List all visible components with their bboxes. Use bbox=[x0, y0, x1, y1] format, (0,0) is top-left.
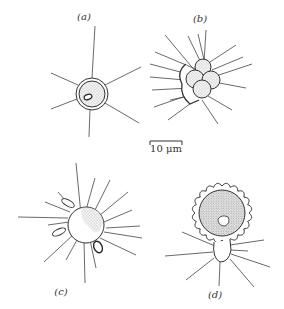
cell-b-4 bbox=[193, 80, 211, 98]
attached-body-c-3 bbox=[92, 240, 104, 254]
scale-bar-label: 10 μm bbox=[150, 143, 182, 154]
figure-canvas: (a) (b) bbox=[0, 0, 284, 309]
nucleus-d bbox=[218, 216, 229, 226]
panel-label-d: (d) bbox=[208, 289, 222, 300]
panel-label-b: (b) bbox=[193, 13, 207, 24]
panel-label-a: (a) bbox=[77, 11, 91, 22]
panel-b: (b) bbox=[150, 13, 252, 124]
panel-label-c: (c) bbox=[54, 286, 68, 297]
panel-a: (a) bbox=[51, 11, 141, 137]
lower-cell-d bbox=[214, 240, 231, 262]
attached-body-c-2 bbox=[51, 226, 66, 237]
panel-d: (d) bbox=[165, 183, 270, 300]
attached-body-c-1 bbox=[60, 197, 75, 209]
scale-bar: 10 μm bbox=[150, 141, 182, 154]
cell-body-d bbox=[199, 190, 245, 236]
panel-c: (c) bbox=[18, 163, 142, 297]
cell-body-a bbox=[79, 81, 105, 107]
